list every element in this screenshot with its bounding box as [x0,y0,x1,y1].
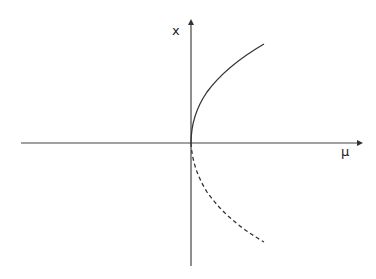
upper-branch-curve [191,44,264,143]
bifurcation-diagram [0,0,376,279]
mu-axis-label: μ [341,145,349,158]
lower-branch-curve [191,143,264,242]
x-axis-label: x [172,24,180,37]
